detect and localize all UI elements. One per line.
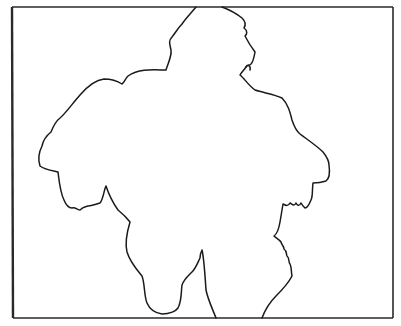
frame-left-edge — [12, 7, 13, 318]
silhouette-face-detail — [246, 66, 250, 70]
line-drawing — [0, 0, 401, 326]
silhouette-right-outline — [222, 7, 330, 318]
silhouette-left-outline — [39, 7, 216, 318]
frame — [12, 7, 393, 318]
